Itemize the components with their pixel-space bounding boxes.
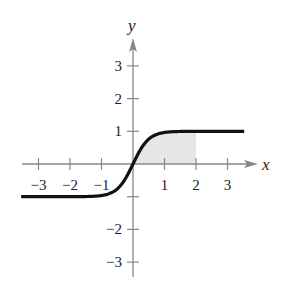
function-graph: −3−2−1123321−2−3 x y <box>0 0 283 282</box>
y-tick-label: 1 <box>115 123 123 139</box>
y-tick-label: −3 <box>106 254 122 270</box>
x-tick-label: 3 <box>224 177 232 193</box>
x-tick-label: 1 <box>161 177 169 193</box>
x-tick-label: −1 <box>94 177 110 193</box>
x-tick-label: 2 <box>192 177 200 193</box>
y-tick-label: 2 <box>115 91 123 107</box>
y-tick-label: 3 <box>115 58 123 74</box>
x-axis-label: x <box>261 155 270 174</box>
x-tick-label: −3 <box>31 177 47 193</box>
x-tick-label: −2 <box>62 177 78 193</box>
y-axis-label: y <box>126 16 136 35</box>
y-tick-label: −2 <box>106 221 122 237</box>
